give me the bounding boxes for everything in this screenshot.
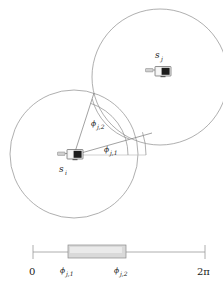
scale-interval-box-highlight <box>70 247 122 253</box>
scale-label-zero: 0 <box>29 266 35 277</box>
figure-root: s i s j ϕ j,1 ϕ j,2 0 ϕ j,1 ϕ j,2 <box>0 0 223 285</box>
node-si-screen-right <box>74 151 82 158</box>
node-si-label: s <box>59 164 64 174</box>
node-sj-keyboard <box>146 69 154 72</box>
node-si-keyboard <box>58 152 66 155</box>
node-si-label-subscript: i <box>65 169 67 176</box>
scale-label-phi-j-1: ϕ <box>60 266 65 275</box>
node-sj-screen-right <box>162 68 170 75</box>
angle-label-phi-j-2: ϕ <box>91 119 96 128</box>
angle-label-phi-j-1: ϕ <box>104 145 109 154</box>
scale-label-phi-j-2-subscript: j,2 <box>118 270 128 278</box>
sensor-node-sj <box>146 67 172 78</box>
angle-label-phi-j-1-subscript: j,1 <box>108 149 118 157</box>
node-sj-screen-left <box>157 68 161 75</box>
angle-label-phi-j-2-subscript: j,2 <box>95 123 105 131</box>
node-si-stand <box>73 159 78 160</box>
diagram-canvas: s i s j ϕ j,1 ϕ j,2 0 ϕ j,1 ϕ j,2 <box>0 0 223 285</box>
scale-label-two-pi: 2π <box>197 266 210 277</box>
node-sj-stand <box>161 76 166 77</box>
scale-label-phi-j-2: ϕ <box>114 266 119 275</box>
node-sj-label: s <box>155 50 160 60</box>
sensor-node-si <box>58 150 84 161</box>
node-si-screen-left <box>69 151 73 158</box>
coverage-circle-sj <box>92 9 223 145</box>
scale-label-phi-j-1-subscript: j,1 <box>64 270 74 278</box>
